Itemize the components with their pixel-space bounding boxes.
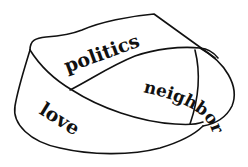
word-politics: politics bbox=[61, 29, 142, 77]
mobius-strip-diagram: politics neighbor love bbox=[0, 0, 248, 167]
word-love: love bbox=[36, 98, 84, 139]
word-neighbor: neighbor bbox=[142, 76, 228, 136]
